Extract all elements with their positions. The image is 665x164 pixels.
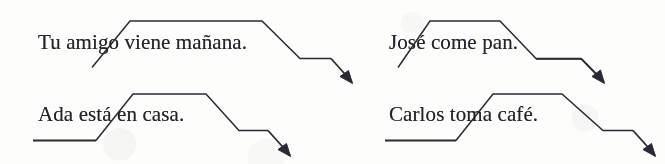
sentence-ada-esta: Ada está en casa. xyxy=(38,104,184,125)
sentence-tu-amigo: Tu amigo viene mañana. xyxy=(38,32,247,53)
intonation-figure: Tu amigo viene mañana. Ada está en casa.… xyxy=(0,0,665,164)
contour-layer xyxy=(0,0,665,164)
arrow-jose-come xyxy=(581,59,605,84)
arrow-tu-amigo xyxy=(331,59,353,84)
sentence-carlos-toma: Carlos toma café. xyxy=(389,104,538,125)
arrow-carlos-toma xyxy=(633,131,656,157)
arrow-ada-esta xyxy=(268,131,291,157)
sentence-jose-come: José come pan. xyxy=(389,32,518,53)
